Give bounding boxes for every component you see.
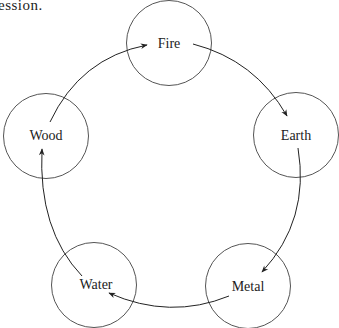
node-wood: Wood [4,94,89,179]
node-fire: Fire [127,1,212,86]
arrow-fire-to-earth [193,44,287,116]
node-label-metal: Metal [232,279,265,294]
node-label-fire: Fire [158,36,181,51]
node-label-earth: Earth [281,128,311,143]
node-label-water: Water [79,277,112,292]
cycle-diagram: Fire Earth Metal Water Wood [0,0,339,328]
arrow-metal-to-water [109,293,229,307]
node-label-wood: Wood [29,128,62,143]
node-metal: Metal [206,244,291,328]
arrow-wood-to-fire [50,45,147,122]
node-earth: Earth [254,93,339,178]
node-water: Water [52,243,137,328]
